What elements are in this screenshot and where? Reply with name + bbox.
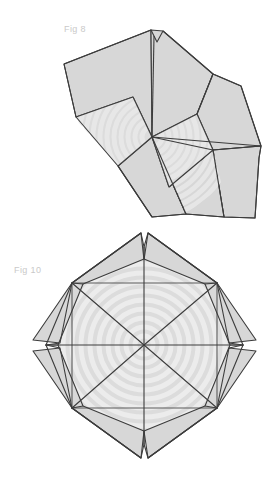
figure-sheet: Fig 8 — [0, 0, 273, 482]
figures-canvas: Fig 8 — [0, 0, 273, 482]
figure-fig-8: Fig 8 — [64, 24, 261, 218]
figure-fig-10: Fig 10 — [14, 233, 256, 458]
fig-10-crease-lines — [46, 233, 243, 458]
fig-8-label: Fig 8 — [64, 24, 86, 34]
fig-10-label: Fig 10 — [14, 265, 41, 275]
